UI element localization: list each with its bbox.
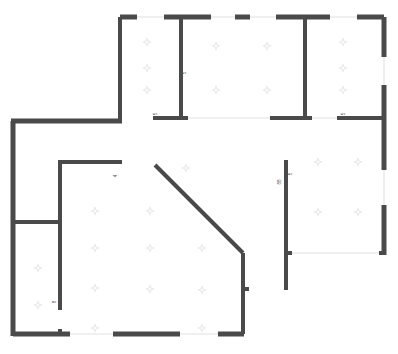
room-marker-10 xyxy=(91,207,99,215)
dimension-label-label-upper-left-room: 5 xyxy=(153,112,158,115)
floor-plan-canvas: 55548885 xyxy=(0,0,398,354)
room-marker-17 xyxy=(146,244,154,252)
room-marker-21 xyxy=(198,324,206,332)
room-marker-5 xyxy=(263,42,271,50)
room-marker-4 xyxy=(212,86,220,94)
room-marker-14 xyxy=(91,284,99,292)
room-marker-8 xyxy=(339,64,347,72)
dimension-label-label-lower-left-wall: 4 xyxy=(113,174,118,177)
wall-segment-diagonal-wall xyxy=(155,165,243,253)
room-marker-11 xyxy=(91,244,99,252)
room-marker-0 xyxy=(143,38,151,46)
room-marker-26 xyxy=(182,164,190,172)
markers-layer xyxy=(34,38,362,332)
room-marker-18 xyxy=(146,285,154,293)
dimension-label-label-upper-right-room: 5 xyxy=(341,112,346,115)
room-marker-25 xyxy=(354,208,362,216)
room-marker-24 xyxy=(314,208,322,216)
room-marker-12 xyxy=(34,264,42,272)
dimension-label-label-lower-left-inner: 8 xyxy=(52,300,57,303)
walls-layer xyxy=(11,17,384,336)
dimension-label-label-lower-right-b: 5 xyxy=(288,172,293,175)
room-marker-23 xyxy=(354,158,362,166)
room-marker-22 xyxy=(314,158,322,166)
room-marker-3 xyxy=(212,42,220,50)
room-marker-20 xyxy=(198,286,206,294)
room-marker-6 xyxy=(263,86,271,94)
room-marker-15 xyxy=(91,324,99,332)
dimension-labels-layer: 55548885 xyxy=(52,71,346,303)
room-marker-13 xyxy=(34,301,42,309)
room-marker-9 xyxy=(339,86,347,94)
room-marker-7 xyxy=(339,38,347,46)
room-marker-16 xyxy=(146,207,154,215)
room-marker-1 xyxy=(143,64,151,72)
floor-plan-drawing: 55548885 xyxy=(0,0,398,354)
room-marker-2 xyxy=(143,86,151,94)
dimension-label-label-upper-mid-vertical: 5 xyxy=(182,71,187,74)
dimension-label-label-lower-right-a: 88 xyxy=(277,179,282,185)
room-marker-19 xyxy=(198,244,206,252)
